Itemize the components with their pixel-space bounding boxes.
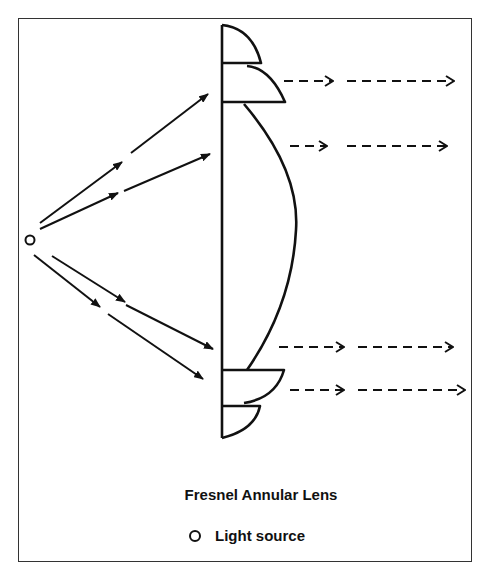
- figure-title: Fresnel Annular Lens: [20, 486, 482, 503]
- legend-label-light-source: Light source: [215, 527, 305, 544]
- incoming-rays: [34, 94, 213, 379]
- light-source-legend-icon: [189, 530, 201, 542]
- legend: Light source: [189, 527, 305, 544]
- light-source-icon: [26, 236, 35, 245]
- fresnel-lens: [222, 25, 296, 438]
- outgoing-rays: [279, 81, 465, 390]
